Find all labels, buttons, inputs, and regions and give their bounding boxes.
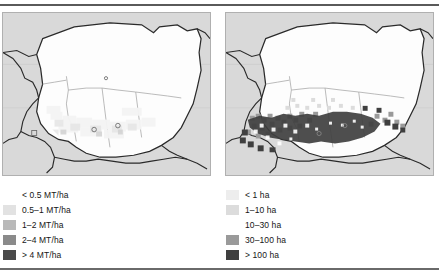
legend-label: < 0.5 MT/ha xyxy=(22,190,69,200)
legend-item: < 0.5 MT/ha xyxy=(3,187,211,202)
legend-item: < 1 ha xyxy=(226,187,434,202)
legend-swatch xyxy=(226,235,239,245)
legend-swatch xyxy=(226,190,239,200)
legend-label: 1–10 ha xyxy=(245,205,276,215)
legend-item: 2–4 MT/ha xyxy=(3,232,211,247)
legend-label: > 100 ha xyxy=(245,250,279,260)
legend-label: 1–2 MT/ha xyxy=(22,220,64,230)
legend-swatch xyxy=(226,220,239,230)
legend-swatch xyxy=(3,190,16,200)
top-divider-rule xyxy=(0,4,439,6)
legend-swatch xyxy=(3,205,16,215)
bottom-divider-rule xyxy=(0,268,439,270)
legend-item: 0.5–1 MT/ha xyxy=(3,202,211,217)
legend-swatch xyxy=(3,250,16,260)
legend-swatch xyxy=(226,205,239,215)
area-map-graphic xyxy=(226,13,433,175)
map-figure: < 0.5 MT/ha 0.5–1 MT/ha 1–2 MT/ha 2–4 MT… xyxy=(0,12,439,262)
legend-item: 10–30 ha xyxy=(226,217,434,232)
yield-legend: < 0.5 MT/ha 0.5–1 MT/ha 1–2 MT/ha 2–4 MT… xyxy=(2,187,211,262)
yield-map-frame xyxy=(2,12,211,176)
legend-label: 0.5–1 MT/ha xyxy=(22,205,71,215)
legend-label: 10–30 ha xyxy=(245,220,281,230)
legend-item: 1–10 ha xyxy=(226,202,434,217)
legend-label: < 1 ha xyxy=(245,190,269,200)
legend-item: > 4 MT/ha xyxy=(3,247,211,262)
legend-swatch xyxy=(3,220,16,230)
legend-item: 30–100 ha xyxy=(226,232,434,247)
area-panel: < 1 ha 1–10 ha 10–30 ha 30–100 ha > 100 … xyxy=(225,12,434,262)
yield-map-graphic xyxy=(3,13,210,175)
legend-label: 2–4 MT/ha xyxy=(22,235,64,245)
legend-swatch xyxy=(3,235,16,245)
legend-item: 1–2 MT/ha xyxy=(3,217,211,232)
yield-panel: < 0.5 MT/ha 0.5–1 MT/ha 1–2 MT/ha 2–4 MT… xyxy=(2,12,211,262)
legend-item: > 100 ha xyxy=(226,247,434,262)
area-map-frame xyxy=(225,12,434,176)
legend-swatch xyxy=(226,250,239,260)
legend-label: > 4 MT/ha xyxy=(22,250,61,260)
legend-label: 30–100 ha xyxy=(245,235,286,245)
area-legend: < 1 ha 1–10 ha 10–30 ha 30–100 ha > 100 … xyxy=(225,187,434,262)
